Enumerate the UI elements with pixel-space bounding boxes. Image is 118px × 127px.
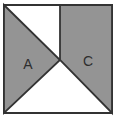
geometry-figure-canvas: A C	[0, 0, 118, 127]
region-label-a: A	[23, 56, 33, 72]
region-label-c: C	[83, 53, 93, 69]
geometry-figure: A C	[0, 0, 118, 127]
